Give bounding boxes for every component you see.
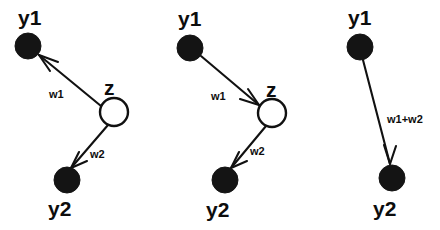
panel-right: w1+w2 y1 y2 (347, 6, 423, 220)
node-z (100, 98, 128, 126)
node-z (258, 99, 286, 127)
node-y1 (347, 34, 373, 60)
node-y1 (15, 33, 41, 59)
path-diagram-figure: w1 w2 y1 z y2 w1 (0, 0, 440, 230)
edge-line-y1-to-z (201, 56, 259, 105)
node-label-z: z (104, 76, 115, 99)
edge-y1-to-z: w1 (201, 56, 259, 105)
edge-z-to-y1: w1 (39, 55, 101, 106)
edge-z-to-y2: w2 (71, 125, 108, 168)
node-label-y2: y2 (206, 198, 229, 221)
node-y2 (212, 167, 238, 193)
edge-label-w1-plus-w2: w1+w2 (386, 113, 423, 125)
node-label-y2: y2 (48, 197, 71, 220)
node-label-y2: y2 (373, 197, 396, 220)
edge-line-z-to-y2 (71, 125, 108, 168)
node-label-y1: y1 (178, 7, 202, 30)
node-label-y1: y1 (18, 6, 42, 29)
edge-label-w2: w2 (89, 148, 105, 160)
edge-label-w1: w1 (210, 90, 226, 102)
node-y2 (54, 167, 80, 193)
panel-left: w1 w2 y1 z y2 (15, 6, 128, 220)
edge-label-w1: w1 (48, 88, 64, 100)
node-label-y1: y1 (348, 6, 372, 29)
edge-z-to-y2: w2 (231, 126, 266, 168)
panel-middle: w1 w2 y1 z y2 (177, 7, 286, 221)
node-y1 (177, 35, 203, 61)
node-y2 (379, 165, 405, 191)
edge-y1-to-y2: w1+w2 (363, 60, 423, 164)
node-label-z: z (266, 78, 277, 101)
edge-label-w2: w2 (249, 145, 265, 157)
arrowhead-y2 (384, 145, 396, 164)
diagram-canvas: w1 w2 y1 z y2 w1 (0, 0, 440, 230)
